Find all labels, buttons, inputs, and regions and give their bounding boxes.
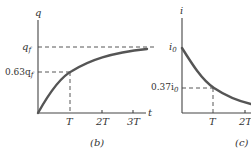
037i0-label: 0.37i0 [151,82,179,94]
charging-curve [38,49,147,113]
tick-label-T: T [66,116,74,127]
i-axis-label: i [180,5,183,16]
q-axis-label: q [35,7,41,18]
panel-c-current-graph: i i0 0.37i0 T 2T (c) [151,5,251,148]
tick-label-2T-c: 2T [238,116,251,127]
panel-b-charge-graph: q t qf 0.63qf T 2T 3T (b) [5,7,155,148]
tick-label-T-c: T [209,116,217,127]
tick-label-3T: 3T [127,116,141,127]
063qf-label: 0.63qf [5,67,35,79]
qf-label: qf [22,41,32,54]
figure: q t qf 0.63qf T 2T 3T (b) i i0 0.37i0 T … [0,0,251,160]
panel-c-caption: (c) [235,137,249,148]
discharging-curve [182,48,251,104]
panel-b-caption: (b) [90,137,104,148]
i0-label: i0 [169,41,177,54]
t-axis-label: t [148,107,153,118]
tick-label-2T: 2T [95,116,110,127]
